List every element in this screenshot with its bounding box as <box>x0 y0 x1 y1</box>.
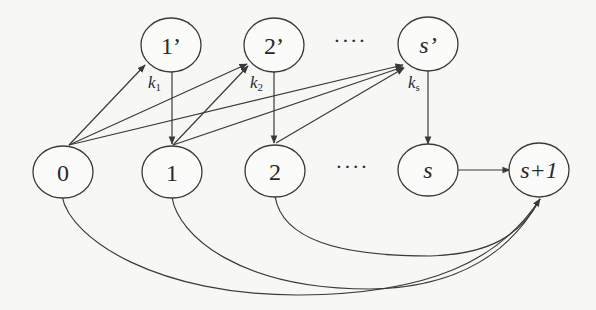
node-s: s <box>398 144 458 196</box>
edge-label-k1: k1 <box>148 73 161 93</box>
edge-label-k2: k2 <box>250 73 263 93</box>
node-s-prime: s’ <box>398 17 458 71</box>
edge-0-to-1p <box>69 65 145 145</box>
svg-text:s’: s’ <box>419 32 436 58</box>
network-diagram: 1’ 2’ ···· s’ k1 k2 ks 0 1 2 ···· s s+1 <box>0 0 596 310</box>
edge-0-to-2p <box>69 64 247 145</box>
node-0: 0 <box>33 146 93 198</box>
svg-text:s: s <box>423 157 432 183</box>
edge-1-to-2p <box>173 66 248 145</box>
edge-0-to-s1-curve <box>62 196 540 295</box>
svg-text:2’: 2’ <box>264 33 284 59</box>
node-2-prime: 2’ <box>244 18 304 72</box>
ellipsis-top: ···· <box>333 28 366 53</box>
svg-text:s+1: s+1 <box>520 157 558 183</box>
node-s-plus-1: s+1 <box>509 143 569 197</box>
edge-label-ks: ks <box>408 73 420 93</box>
node-1: 1 <box>142 146 202 198</box>
edge-1-to-s1-curve <box>172 197 540 289</box>
svg-text:0: 0 <box>57 160 69 186</box>
svg-text:1’: 1’ <box>161 33 181 59</box>
node-1-prime: 1’ <box>141 18 201 72</box>
svg-text:2: 2 <box>269 159 281 185</box>
edge-0-to-sp <box>69 65 403 145</box>
edge-1-to-sp <box>173 67 403 145</box>
node-2: 2 <box>245 145 305 197</box>
edge-2-to-sp <box>276 68 404 143</box>
svg-text:1: 1 <box>166 160 178 186</box>
ellipsis-bottom: ···· <box>335 154 368 179</box>
